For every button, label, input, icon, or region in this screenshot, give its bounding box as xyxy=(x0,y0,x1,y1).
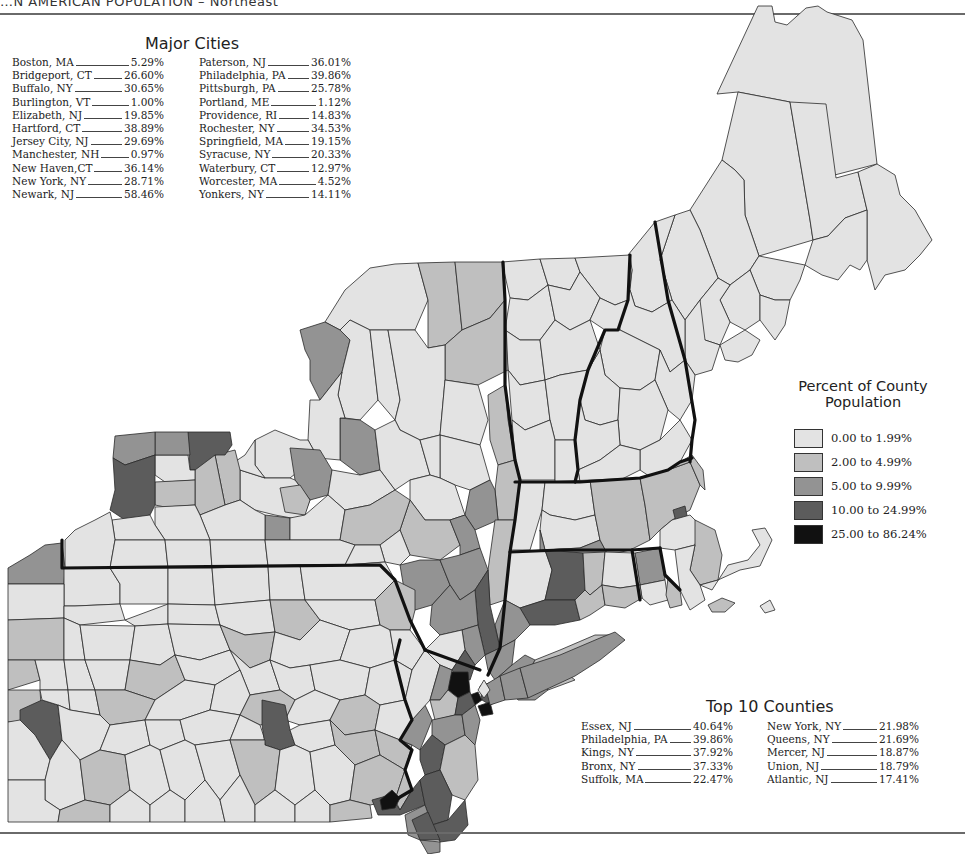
legend-item: 0.00 to 1.99% xyxy=(794,426,948,450)
list-item: Yonkers, NY14.11% xyxy=(199,188,351,201)
legend-swatch-class-2 xyxy=(794,477,823,496)
list-item: Atlantic, NJ17.41% xyxy=(767,773,919,786)
list-item: New York, NY28.71% xyxy=(12,175,164,188)
list-item: Jersey City, NJ29.69% xyxy=(12,135,164,148)
list-item: New York, NY21.98% xyxy=(767,720,919,733)
list-item: Elizabeth, NJ19.85% xyxy=(12,109,164,122)
list-item: Philadelphia, PA39.86% xyxy=(581,733,733,746)
list-item: Boston, MA5.29% xyxy=(12,56,164,69)
list-item: Philadelphia, PA39.86% xyxy=(199,69,351,82)
state-pennsylvania xyxy=(8,543,440,822)
list-item: New Haven,CT36.14% xyxy=(12,162,164,175)
bottom-rule xyxy=(0,832,965,834)
list-item: Suffolk, MA22.47% xyxy=(581,773,733,786)
list-item: Union, NJ18.79% xyxy=(767,760,919,773)
legend-swatch-class-3 xyxy=(794,501,823,520)
top-counties-title: Top 10 Counties xyxy=(706,697,834,716)
list-item: Buffalo, NY30.65% xyxy=(12,82,164,95)
list-item: Pittsburgh, PA25.78% xyxy=(199,82,351,95)
state-connecticut xyxy=(495,550,642,648)
list-item: Portland, ME1.12% xyxy=(199,96,351,109)
major-cities-column-2: Paterson, NJ36.01% Philadelphia, PA39.86… xyxy=(199,56,351,201)
list-item: Paterson, NJ36.01% xyxy=(199,56,351,69)
list-item: Bronx, NY37.33% xyxy=(581,760,733,773)
legend-items: 0.00 to 1.99% 2.00 to 4.99% 5.00 to 9.99… xyxy=(794,426,948,546)
list-item: Newark, NJ58.46% xyxy=(12,188,164,201)
top-counties-column-1: Essex, NJ40.64% Philadelphia, PA39.86% K… xyxy=(581,720,733,786)
major-cities-column-1: Boston, MA5.29% Bridgeport, CT26.60% Buf… xyxy=(12,56,164,201)
major-cities-title: Major Cities xyxy=(145,34,239,53)
legend-swatch-class-1 xyxy=(794,453,823,472)
state-rhode-island xyxy=(635,548,682,608)
list-item: Waterbury, CT12.97% xyxy=(199,162,351,175)
legend-item: 2.00 to 4.99% xyxy=(794,450,948,474)
map-legend: Percent of County Population 0.00 to 1.9… xyxy=(778,378,948,546)
list-item: Queens, NY21.69% xyxy=(767,733,919,746)
list-item: Providence, RI14.83% xyxy=(199,109,351,122)
legend-swatch-class-4 xyxy=(794,525,823,544)
legend-title-line-1: Percent of County xyxy=(778,378,948,394)
top-counties-column-2: New York, NY21.98% Queens, NY21.69% Merc… xyxy=(767,720,919,786)
legend-item: 25.00 to 86.24% xyxy=(794,522,948,546)
legend-swatch-class-0 xyxy=(794,429,823,448)
legend-item: 10.00 to 24.99% xyxy=(794,498,948,522)
state-maine xyxy=(660,6,932,375)
list-item: Burlington, VT1.00% xyxy=(12,96,164,109)
list-item: Worcester, MA4.52% xyxy=(199,175,351,188)
list-item: Essex, NJ40.64% xyxy=(581,720,733,733)
list-item: Hartford, CT38.89% xyxy=(12,122,164,135)
legend-item: 5.00 to 9.99% xyxy=(794,474,948,498)
list-item: Kings, NY37.92% xyxy=(581,746,733,759)
list-item: Bridgeport, CT26.60% xyxy=(12,69,164,82)
list-item: Syracuse, NY20.33% xyxy=(199,148,351,161)
legend-title-line-2: Population xyxy=(778,394,948,410)
list-item: Rochester, NY34.53% xyxy=(199,122,351,135)
list-item: Manchester, NH0.97% xyxy=(12,148,164,161)
list-item: Springfield, MA19.15% xyxy=(199,135,351,148)
list-item: Mercer, NJ18.87% xyxy=(767,746,919,759)
